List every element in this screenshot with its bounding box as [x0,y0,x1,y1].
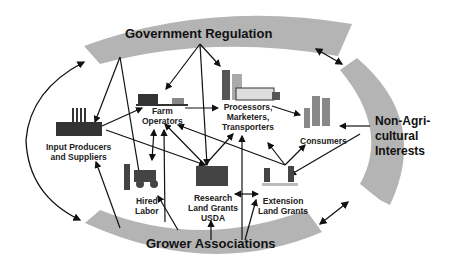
extension-line2: Land Grants [258,206,308,216]
arrow-left-loop [26,62,84,220]
barn-icon [136,94,188,106]
research-building-icon [196,166,228,186]
factory-icon [56,108,102,136]
research-line2: Land Grants [188,203,238,213]
farm-operators-label: Farm Operators [142,106,183,126]
research-line3: USDA [188,213,238,223]
non-ag-line2: cultural [375,129,430,144]
processors-label: Processors, Marketers, Transporters [222,102,274,132]
family-icon [304,96,330,128]
grower-associations-label: Grower Associations [146,236,276,251]
non-agricultural-interests-label: Non-Agri- cultural Interests [375,114,430,159]
input-producers-label: Input Producers and Suppliers [46,142,111,162]
extension-label: Extension Land Grants [258,196,308,216]
proc-line3: Transporters [222,122,274,132]
consumers-label: Consumers [300,136,347,146]
farm-line1: Farm [142,106,183,116]
research-label: Research Land Grants USDA [188,193,238,223]
worker-tractor-icon [124,164,158,190]
grain-elevator-truck-icon [222,70,280,100]
farm-line2: Operators [142,116,183,126]
input-line1: Input Producers [46,142,111,152]
input-line2: and Suppliers [46,152,111,162]
hired-labor-label: Hired Labor [135,196,159,216]
proc-line1: Processors, [222,102,274,112]
proc-line2: Marketers, [222,112,274,122]
government-regulation-label: Government Regulation [125,26,272,41]
hired-line2: Labor [135,206,159,216]
non-ag-line1: Non-Agri- [375,114,430,129]
hired-line1: Hired [135,196,159,206]
extension-line1: Extension [258,196,308,206]
extension-meeting-icon [262,166,298,186]
non-ag-line3: Interests [375,144,430,159]
research-line1: Research [188,193,238,203]
